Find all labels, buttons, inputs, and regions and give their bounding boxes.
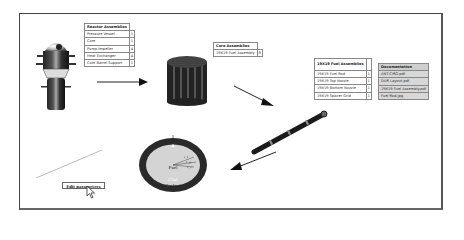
table-row[interactable]: Pump Impeller4 [85,45,135,52]
table-header: Documentation [379,64,429,71]
table-header: Reactor Assemblies [85,24,130,31]
documentation-table: Documentation ANT-CIRO.pdf DUR Layout.pd… [378,63,429,100]
arrow-right-icon [96,78,148,86]
document-link[interactable]: Fuel Rod.jpg [379,92,429,99]
mouse-cursor-icon [86,185,96,199]
fuel-label: Fuel [163,165,183,170]
clad-label: Clad [163,177,183,182]
table-header: 19X19 Fuel Assemblies [315,59,367,71]
core-assemblies-table: Core Assemblies 19X19 Fuel Assembly8 [213,42,263,57]
table-row[interactable]: 19X19 Fuel Rod1 [315,71,372,78]
arrow-down-left-icon [230,150,278,172]
table-row[interactable]: 19X19 Spacer Grid1 [315,92,372,99]
radius-label: r_c [187,165,192,169]
radius-label: r_g [186,160,191,164]
coolant-label: Coolant [163,183,183,188]
table-row[interactable]: Heat Exchanger4 [85,52,135,59]
table-row[interactable]: Core Barrel Support1 [85,60,135,67]
table-row[interactable]: 19X19 Top Nozzle1 [315,78,372,85]
table-row[interactable]: 19X19 Bottom Nozzle1 [315,85,372,92]
table-row[interactable]: 19X19 Fuel Assembly8 [214,50,263,57]
document-link[interactable]: ANT-CIRO.pdf [379,71,429,78]
pointer-line [34,148,104,180]
document-link[interactable]: 19X19 Fuel Assembly.pdf [379,85,429,92]
reactor-assemblies-table: Reactor Assemblies Pressure Vessel1 Core… [84,23,135,67]
arrow-down-right-icon [232,84,274,108]
fuel-rod-image [250,108,330,156]
fuel-assemblies-table: 19X19 Fuel Assemblies 19X19 Fuel Rod1 19… [314,58,372,100]
reactor-vessel-image [33,36,79,111]
gap-label: Gap [163,171,183,176]
table-row[interactable]: Core1 [85,38,135,45]
edit-parameters-button[interactable]: Edit parameters [62,182,105,189]
reactor-core-image [165,55,209,107]
table-header: Core Assemblies [214,43,258,50]
document-link[interactable]: DUR Layout.pdf [379,78,429,85]
table-row[interactable]: Pressure Vessel1 [85,31,135,38]
